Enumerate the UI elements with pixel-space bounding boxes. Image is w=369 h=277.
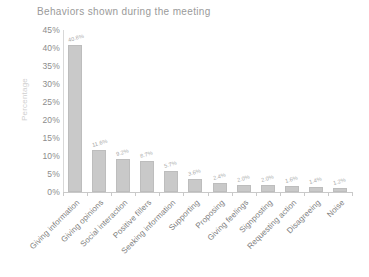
bar — [333, 188, 347, 192]
bar — [140, 161, 154, 192]
y-axis-tick: 25% — [42, 97, 60, 107]
y-axis-tick: 5% — [47, 169, 60, 179]
x-axis-tick-mark — [63, 192, 64, 196]
x-axis-category-labels: Giving informationGiving opinionsSocial … — [0, 196, 369, 277]
bar — [116, 159, 130, 192]
bar-value-label: 9.2% — [116, 148, 130, 157]
x-axis-tick-mark — [256, 192, 257, 196]
x-axis-tick-mark — [159, 192, 160, 196]
x-axis-tick-mark — [111, 192, 112, 196]
y-axis-tick: 35% — [42, 61, 60, 71]
chart-title: Behaviors shown during the meeting — [37, 6, 211, 17]
bar-value-label: 1.6% — [284, 175, 298, 184]
bar-chart: Behaviors shown during the meeting Perce… — [0, 0, 369, 277]
bar-group: 9.2% — [116, 30, 130, 192]
bar-group: 2.0% — [261, 30, 275, 192]
bar-value-label: 11.6% — [91, 138, 108, 148]
bar — [164, 171, 178, 192]
x-axis-tick-mark — [304, 192, 305, 196]
x-axis-tick-mark — [280, 192, 281, 196]
bar-value-label: 3.6% — [188, 168, 202, 177]
bar — [213, 183, 227, 192]
y-axis-tick: 20% — [42, 115, 60, 125]
bar-group: 3.6% — [188, 30, 202, 192]
y-axis-tick: 45% — [42, 25, 60, 35]
y-axis-tick: 30% — [42, 79, 60, 89]
bar-group: 2.0% — [237, 30, 251, 192]
plot-area: 40.8%11.6%9.2%8.7%5.7%3.6%2.4%2.0%2.0%1.… — [63, 30, 352, 192]
x-axis-tick-mark — [208, 192, 209, 196]
x-axis-tick-mark — [135, 192, 136, 196]
bar-group: 11.6% — [92, 30, 106, 192]
bar-value-label: 8.7% — [140, 149, 154, 158]
bar-value-label: 1.4% — [308, 176, 322, 185]
bar-value-label: 40.8% — [67, 33, 84, 43]
bar-value-label: 5.7% — [164, 160, 178, 169]
bar-group: 40.8% — [68, 30, 82, 192]
y-axis-tick-labels: 45%40%35%30%25%20%15%10%5%0% — [22, 30, 60, 192]
bar — [285, 186, 299, 192]
bar-group: 1.2% — [333, 30, 347, 192]
x-axis-tick-mark — [352, 192, 353, 196]
bar — [237, 185, 251, 192]
bar-group: 2.4% — [213, 30, 227, 192]
bar — [92, 150, 106, 192]
y-axis-tick: 40% — [42, 43, 60, 53]
bar-value-label: 2.0% — [236, 173, 250, 182]
bar-group: 1.6% — [285, 30, 299, 192]
bar-group: 5.7% — [164, 30, 178, 192]
bar — [309, 187, 323, 192]
y-axis-tick: 15% — [42, 133, 60, 143]
bar-value-label: 2.0% — [260, 173, 274, 182]
x-axis-tick-mark — [328, 192, 329, 196]
x-axis-tick-mark — [183, 192, 184, 196]
bar — [68, 45, 82, 192]
x-axis-tick-mark — [87, 192, 88, 196]
bar — [261, 185, 275, 192]
bar-group: 8.7% — [140, 30, 154, 192]
bar-group: 1.4% — [309, 30, 323, 192]
bar-value-label: 2.4% — [212, 172, 226, 181]
x-axis-tick-mark — [232, 192, 233, 196]
y-axis-tick: 10% — [42, 151, 60, 161]
bar — [188, 179, 202, 192]
bar-value-label: 1.2% — [332, 176, 346, 185]
